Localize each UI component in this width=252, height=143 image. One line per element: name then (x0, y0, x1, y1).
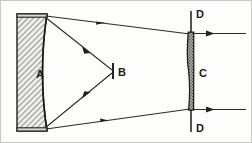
mirror-bottom-cap (17, 128, 47, 131)
label-D-top: D (196, 8, 204, 20)
diagram-canvas: A B C D D (0, 0, 252, 143)
mirror-top-cap (17, 14, 47, 17)
label-C: C (199, 67, 207, 79)
label-A: A (36, 68, 44, 80)
label-B: B (118, 66, 126, 78)
optical-ray-diagram: A B C D D (0, 0, 252, 143)
label-D-bottom: D (196, 122, 204, 134)
